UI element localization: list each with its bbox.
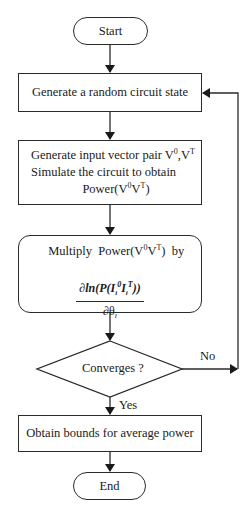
simulate-line2: Simulate the circuit to obtain: [31, 164, 176, 181]
simulate-line1: Generate input vector pair V0,VT: [31, 147, 195, 164]
simulate-box: Generate input vector pair V0,VT Simulat…: [18, 140, 202, 205]
obtain-bounds-label: Obtain bounds for average power: [26, 425, 193, 442]
yes-label: Yes: [119, 398, 137, 413]
gradient-fraction: ∂ln(P(Ii0IiT)) ∂θi: [76, 280, 143, 322]
generate-state-label: Generate a random circuit state: [32, 84, 188, 101]
multiply-box: Multiply Power(V0VT) by ∂ln(P(Ii0IiT)) ∂…: [18, 235, 202, 313]
end-label: End: [99, 478, 119, 495]
obtain-bounds-box: Obtain bounds for average power: [18, 415, 202, 452]
fraction-denominator: ∂θi: [103, 302, 117, 322]
simulate-line3: Power(V0VT): [82, 181, 149, 198]
start-label: Start: [99, 23, 123, 40]
generate-state-box: Generate a random circuit state: [18, 73, 202, 112]
decision-label: Converges ?: [82, 361, 144, 376]
no-label: No: [200, 349, 215, 364]
fraction-numerator: ∂ln(P(Ii0IiT)): [76, 280, 143, 302]
end-terminal: End: [73, 472, 146, 500]
multiply-line1: Multiply Power(V0VT) by: [36, 226, 184, 277]
start-terminal: Start: [73, 17, 148, 45]
